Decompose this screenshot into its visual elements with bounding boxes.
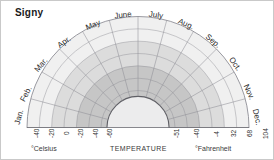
celsius-tick-5: -60: [106, 129, 113, 138]
fahrenheit-tick-0: -51: [173, 129, 180, 138]
celsius-tick-2: 0: [63, 131, 70, 135]
celsius-tick-0: -40: [33, 129, 40, 138]
fahrenheit-tick-1: -40: [193, 129, 200, 138]
month-label-july: July: [148, 10, 163, 21]
fahrenheit-tick-5: 104: [262, 128, 269, 139]
temperature-axis-label: TEMPERATURE: [110, 145, 167, 152]
celsius-tick-4: -40: [92, 129, 99, 138]
fahrenheit-tick-4: 68: [246, 130, 253, 137]
climate-temperature-rose-figure: Signy -40-200-20-40-60-51-40-43268104 Ja…: [0, 0, 274, 160]
fahrenheit-tick-3: 32: [230, 130, 237, 137]
fahrenheit-axis-label: °Fahrenheit: [195, 145, 231, 152]
fahrenheit-tick-2: -4: [213, 131, 220, 137]
celsius-tick-1: -20: [48, 129, 55, 138]
celsius-axis-label: °Celsius: [31, 145, 57, 152]
page-title: Signy: [15, 7, 43, 18]
celsius-tick-3: -20: [77, 129, 84, 138]
